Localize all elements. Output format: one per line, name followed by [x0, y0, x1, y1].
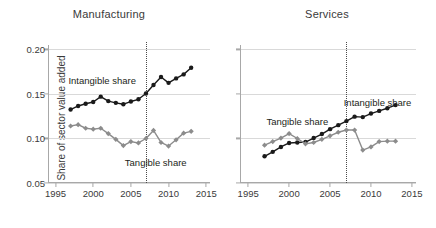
- x-axis-tick-mark: [206, 183, 207, 187]
- y-axis-tick-label: 0.20: [27, 44, 46, 55]
- data-point-circle: [361, 115, 365, 119]
- x-axis-tick-mark: [248, 183, 249, 187]
- x-axis-tick-label: 2010: [158, 188, 179, 199]
- data-point-diamond: [128, 139, 133, 144]
- series-annotation-tangible-share: Tangible share: [125, 157, 187, 168]
- data-point-diamond: [270, 139, 275, 144]
- data-point-circle: [344, 119, 348, 123]
- data-point-diamond: [327, 133, 332, 138]
- series-layer: [240, 45, 416, 183]
- data-point-circle: [181, 72, 185, 76]
- data-point-diamond: [68, 123, 73, 128]
- data-point-diamond: [393, 139, 398, 144]
- plot-area-services: 19952000200520102015Tangible shareIntang…: [240, 45, 416, 183]
- x-axis-tick-label: 1995: [238, 188, 259, 199]
- data-point-circle: [166, 81, 170, 85]
- data-point-diamond: [83, 126, 88, 131]
- figure-container: Share of sector value added Manufacturin…: [0, 0, 436, 228]
- panel-manufacturing: Manufacturing 0.050.100.150.201995200020…: [0, 0, 218, 228]
- x-axis-tick-label: 2005: [319, 188, 340, 199]
- data-point-diamond: [352, 127, 357, 132]
- data-point-circle: [159, 75, 163, 79]
- data-point-circle: [352, 114, 356, 118]
- data-point-circle: [91, 100, 95, 104]
- series-annotation-intangible-share: Intangible share: [344, 96, 412, 107]
- data-point-diamond: [278, 135, 283, 140]
- data-point-circle: [328, 127, 332, 131]
- data-point-circle: [279, 145, 283, 149]
- x-axis-tick-mark: [55, 183, 56, 187]
- data-point-diamond: [385, 139, 390, 144]
- data-point-circle: [151, 83, 155, 87]
- data-point-diamond: [360, 147, 365, 152]
- data-point-circle: [287, 141, 291, 145]
- x-axis-tick-mark: [168, 183, 169, 187]
- x-axis-tick-mark: [329, 183, 330, 187]
- data-point-diamond: [336, 130, 341, 135]
- x-axis-tick-label: 1995: [45, 188, 66, 199]
- x-axis-tick-mark: [411, 183, 412, 187]
- data-point-diamond: [344, 127, 349, 132]
- x-axis-tick-mark: [289, 183, 290, 187]
- y-axis-tick-label: 0.15: [27, 88, 46, 99]
- data-point-diamond: [311, 140, 316, 145]
- data-point-circle: [114, 101, 118, 105]
- series-annotation-intangible-share: Intangible share: [68, 75, 136, 86]
- data-point-diamond: [189, 129, 194, 134]
- data-point-circle: [377, 109, 381, 113]
- panel-services: Services 19952000200520102015Tangible sh…: [218, 0, 436, 228]
- x-axis-tick-label: 2000: [279, 188, 300, 199]
- data-point-circle: [83, 102, 87, 106]
- y-axis-tick-label: 0.10: [27, 133, 46, 144]
- data-point-circle: [99, 94, 103, 98]
- x-axis-tick-label: 2005: [120, 188, 141, 199]
- x-axis-tick-mark: [370, 183, 371, 187]
- x-axis-tick-label: 2010: [360, 188, 381, 199]
- data-point-circle: [369, 111, 373, 115]
- data-point-diamond: [262, 143, 267, 148]
- data-point-circle: [68, 107, 72, 111]
- data-point-circle: [144, 91, 148, 95]
- data-point-circle: [136, 97, 140, 101]
- data-point-circle: [262, 154, 266, 158]
- data-point-circle: [189, 66, 193, 70]
- data-point-circle: [121, 102, 125, 106]
- data-point-circle: [336, 123, 340, 127]
- series-line-tangible-share: [265, 130, 396, 150]
- data-point-diamond: [91, 127, 96, 132]
- data-point-diamond: [319, 137, 324, 142]
- data-point-diamond: [76, 122, 81, 127]
- x-axis-tick-label: 2000: [83, 188, 104, 199]
- data-point-circle: [320, 132, 324, 136]
- panel-title-services: Services: [218, 8, 436, 20]
- data-point-circle: [76, 104, 80, 108]
- x-axis-tick-mark: [130, 183, 131, 187]
- gridline-y: [48, 183, 210, 184]
- x-axis-tick-mark: [93, 183, 94, 187]
- gridline-y: [240, 183, 416, 184]
- panel-title-manufacturing: Manufacturing: [0, 8, 218, 20]
- series-annotation-tangible-share: Tangible share: [266, 116, 328, 127]
- data-point-circle: [271, 150, 275, 154]
- data-point-circle: [106, 99, 110, 103]
- x-axis-tick-label: 2015: [196, 188, 217, 199]
- data-point-circle: [129, 99, 133, 103]
- data-point-circle: [174, 76, 178, 80]
- x-axis-tick-label: 2015: [401, 188, 422, 199]
- y-axis-tick-label: 0.05: [27, 178, 46, 189]
- data-point-circle: [311, 136, 315, 140]
- plot-area-manufacturing: 0.050.100.150.2019952000200520102015Inta…: [48, 45, 210, 183]
